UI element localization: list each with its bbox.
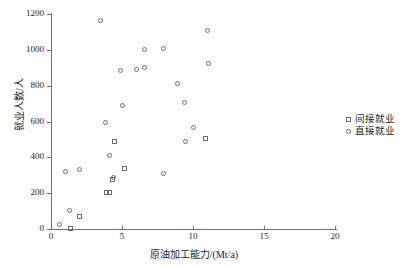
- data-point-direct: [120, 103, 125, 108]
- data-point-direct: [118, 68, 123, 73]
- data-point-direct: [57, 222, 62, 227]
- x-tick: [335, 226, 336, 230]
- data-point-direct: [67, 208, 72, 213]
- legend: 间接就业 直接就业: [346, 113, 395, 137]
- data-point-direct: [182, 100, 187, 105]
- y-axis-title: 就业人数/人: [11, 45, 26, 165]
- legend-item-indirect[interactable]: 间接就业: [346, 113, 395, 125]
- data-point-direct: [205, 28, 210, 33]
- data-point-direct: [183, 139, 188, 144]
- data-point-direct: [77, 167, 82, 172]
- scatter-chart-figure: 020040060080010001200 05101520 就业人数/人 原油…: [0, 0, 416, 267]
- data-point-indirect: [68, 226, 73, 231]
- legend-label-indirect: 间接就业: [355, 113, 395, 125]
- x-axis-line: [51, 229, 337, 230]
- data-point-direct: [206, 61, 211, 66]
- x-tick-label: 0: [36, 232, 66, 241]
- square-marker-icon: [346, 117, 351, 122]
- plot-area: [51, 14, 335, 229]
- x-tick-label: 10: [178, 232, 208, 241]
- data-point-indirect: [203, 136, 208, 141]
- y-tick-label: 1000: [26, 45, 44, 54]
- y-tick-label: 200: [31, 188, 45, 197]
- y-tick-label: 400: [31, 152, 45, 161]
- data-point-direct: [142, 65, 147, 70]
- x-tick-label: 5: [107, 232, 137, 241]
- y-tick-label: 600: [31, 117, 45, 126]
- data-point-indirect: [107, 190, 112, 195]
- data-point-direct: [161, 46, 166, 51]
- data-point-indirect: [77, 214, 82, 219]
- data-point-direct: [98, 18, 103, 23]
- data-point-direct: [107, 153, 112, 158]
- x-tick-label: 20: [320, 232, 350, 241]
- data-point-direct: [134, 67, 139, 72]
- x-axis-title: 原油加工能力/(Mt/a): [51, 246, 337, 261]
- data-point-indirect: [122, 166, 127, 171]
- x-tick-label: 15: [249, 232, 279, 241]
- data-point-direct: [111, 175, 116, 180]
- legend-label-direct: 直接就业: [355, 125, 395, 137]
- circle-marker-icon: [346, 129, 351, 134]
- data-point-direct: [161, 171, 166, 176]
- data-point-direct: [103, 120, 108, 125]
- y-tick-label: 800: [31, 81, 45, 90]
- data-point-direct: [142, 47, 147, 52]
- y-tick-label: 1200: [26, 9, 44, 18]
- data-point-indirect: [112, 139, 117, 144]
- data-point-direct: [191, 125, 196, 130]
- data-point-direct: [175, 81, 180, 86]
- data-point-direct: [63, 169, 68, 174]
- legend-item-direct[interactable]: 直接就业: [346, 125, 395, 137]
